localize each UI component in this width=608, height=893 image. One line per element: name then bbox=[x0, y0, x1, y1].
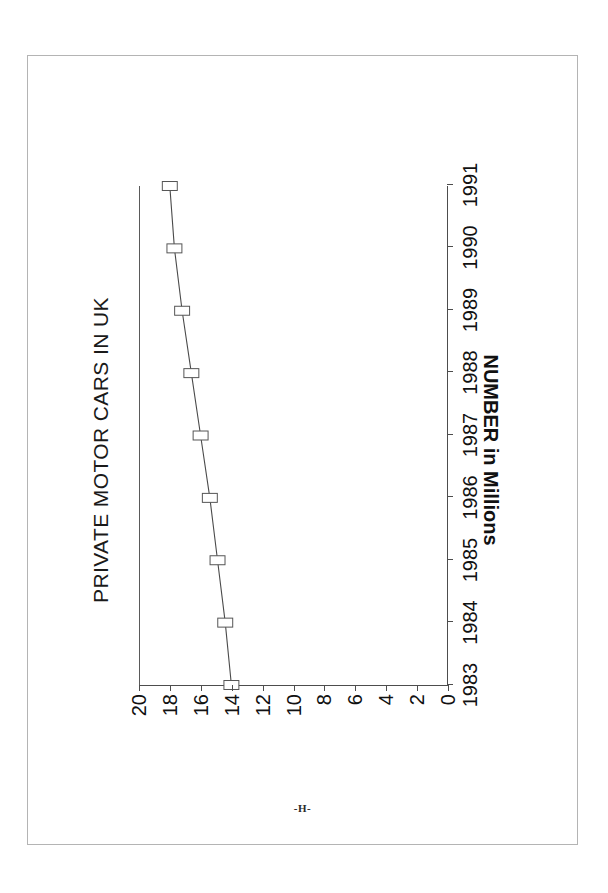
value-axis-tick-label: 10 bbox=[282, 694, 305, 716]
category-axis-tick bbox=[447, 559, 453, 560]
value-axis-tick-label: 12 bbox=[251, 694, 274, 716]
category-axis-tick bbox=[447, 684, 453, 685]
value-axis-tick-label: 0 bbox=[436, 694, 459, 705]
category-axis-tick bbox=[447, 309, 453, 310]
category-axis-tick bbox=[447, 247, 453, 248]
data-point-marker bbox=[183, 369, 198, 378]
data-point-marker bbox=[166, 244, 181, 253]
category-axis-tick bbox=[447, 434, 453, 435]
value-axis-tick-label: 20 bbox=[127, 694, 150, 716]
value-axis-tick-label: 16 bbox=[189, 694, 212, 716]
data-point-marker bbox=[217, 618, 232, 627]
page-number-marker: -H- bbox=[28, 802, 577, 814]
series-marker-group bbox=[162, 182, 239, 690]
value-axis-tick bbox=[139, 685, 140, 691]
data-point-marker bbox=[174, 306, 189, 315]
value-axis-tick bbox=[448, 685, 449, 691]
data-point-marker bbox=[193, 431, 208, 440]
category-axis-tick bbox=[447, 622, 453, 623]
value-axis-tick-label: 8 bbox=[312, 694, 335, 705]
value-axis-tick bbox=[386, 685, 387, 691]
value-axis-tick-label: 4 bbox=[374, 694, 397, 705]
scanned-page-sheet: PRIVATE MOTOR CARS IN UK 201816141210864… bbox=[27, 55, 578, 845]
data-point-marker bbox=[210, 556, 225, 565]
value-axis-tick bbox=[355, 685, 356, 691]
value-axis-tick bbox=[293, 685, 294, 691]
data-point-marker bbox=[162, 182, 177, 191]
plot-area: 20181614121086420 1983198419851986198719… bbox=[139, 186, 448, 686]
value-axis-tick-label: 2 bbox=[405, 694, 428, 705]
rotated-figure: PRIVATE MOTOR CARS IN UK 201816141210864… bbox=[83, 130, 523, 770]
value-axis-tick bbox=[324, 685, 325, 691]
category-axis-tick bbox=[447, 497, 453, 498]
value-axis-tick-label: 18 bbox=[158, 694, 181, 716]
category-axis-tick bbox=[447, 372, 453, 373]
value-axis-tick bbox=[200, 685, 201, 691]
value-axis-tick bbox=[169, 685, 170, 691]
value-axis-tick bbox=[417, 685, 418, 691]
value-axis-tick-label: 6 bbox=[343, 694, 366, 705]
value-axis-tick-label: 14 bbox=[220, 694, 243, 716]
category-axis-tick bbox=[447, 184, 453, 185]
value-axis-tick bbox=[262, 685, 263, 691]
line-series-svg bbox=[139, 186, 447, 685]
value-axis-tick bbox=[231, 685, 232, 691]
chart-title: PRIVATE MOTOR CARS IN UK bbox=[89, 130, 113, 770]
data-point-marker bbox=[202, 493, 217, 502]
value-axis-title: NUMBER in Millions bbox=[479, 130, 502, 770]
